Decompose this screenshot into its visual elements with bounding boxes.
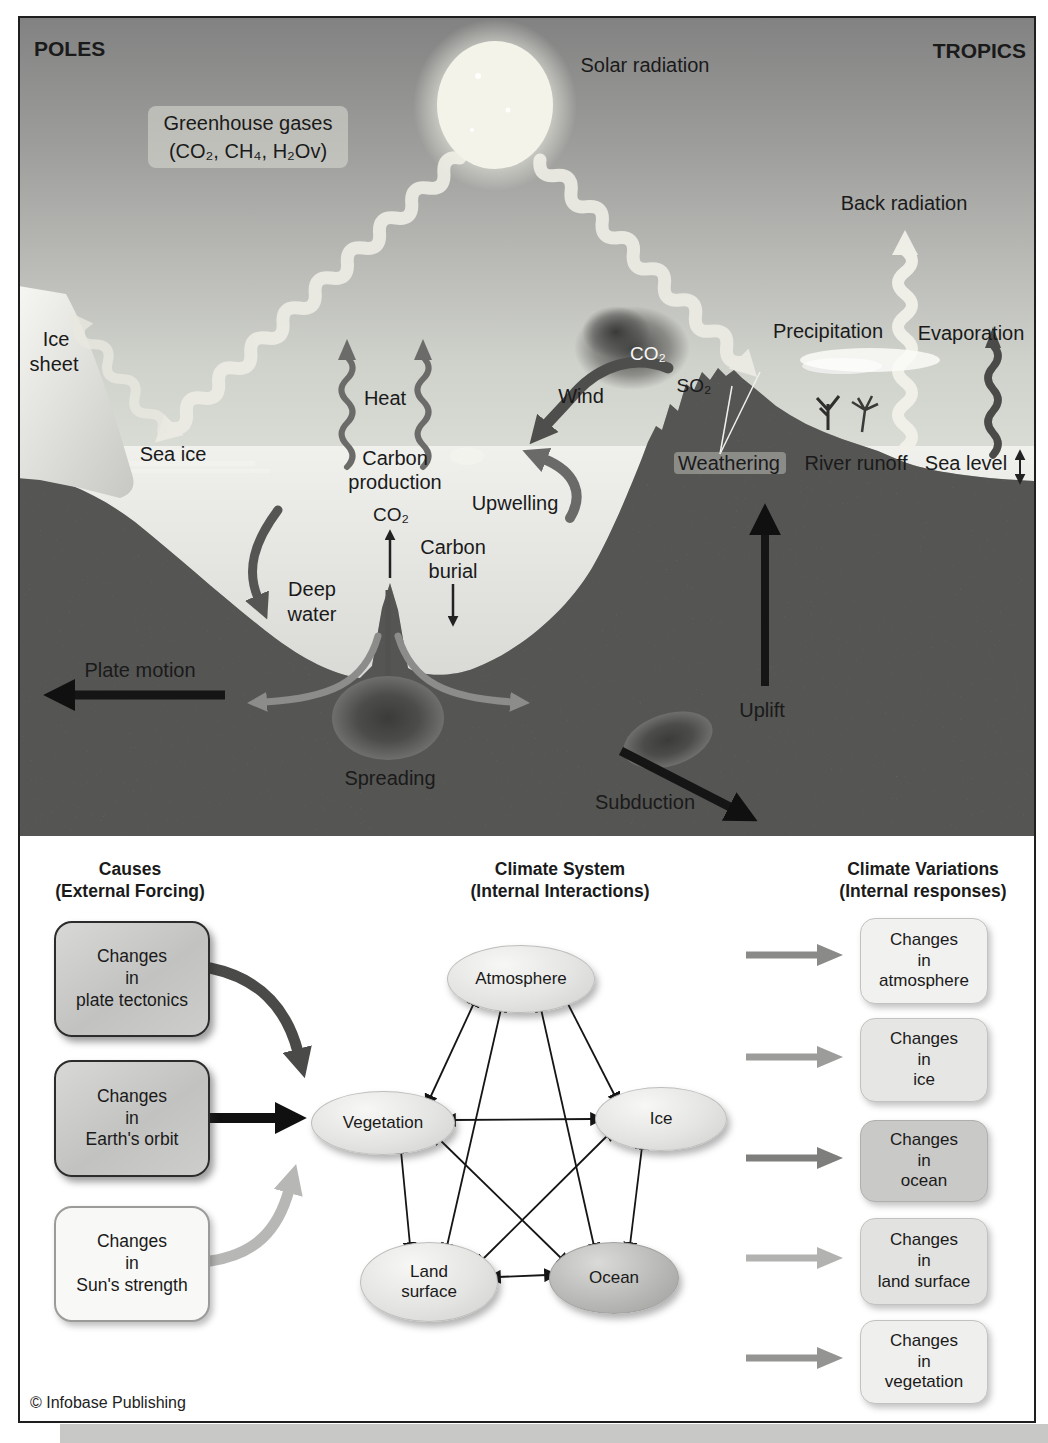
cause-box-line: in <box>56 968 208 990</box>
climate-variations-title: Climate Variations <box>839 858 1006 880</box>
cause-box-plate-tectonics: Changes in plate tectonics <box>54 921 210 1037</box>
node-ice: Ice <box>595 1087 727 1151</box>
uplift-label: Uplift <box>739 699 785 721</box>
response-box-ocean: Changes in ocean <box>860 1120 988 1202</box>
cause-box-line: Changes <box>56 1231 208 1253</box>
plate-tectonics-cause-arrow <box>210 968 298 1052</box>
node-ocean: Ocean <box>549 1242 679 1314</box>
cause-box-line: Sun's strength <box>56 1275 208 1297</box>
greenhouse-formula-label: (CO₂, CH₄, H₂Ov) <box>169 140 327 162</box>
climate-variations-subtitle: (Internal responses) <box>839 880 1006 902</box>
precipitation-label: Precipitation <box>773 320 883 342</box>
climate-system-title: Climate System <box>471 858 650 880</box>
response-box-line: in <box>861 1151 987 1172</box>
edge-atmosphere-vegetation <box>430 1003 474 1098</box>
node-label: Ocean <box>589 1268 639 1288</box>
node-label: Ice <box>650 1109 673 1129</box>
evaporation-label: Evaporation <box>918 322 1025 344</box>
response-arrowhead <box>817 1147 843 1169</box>
edge-atmosphere-ocean <box>541 1009 594 1246</box>
cause-box-line: Changes <box>56 1086 208 1108</box>
page-edge-strip <box>60 1424 1048 1443</box>
response-box-line: Changes <box>861 1130 987 1151</box>
sea-ice-floe <box>115 469 270 473</box>
spreading-label: Spreading <box>344 767 435 789</box>
back-radiation-label: Back radiation <box>841 192 968 214</box>
publisher-credit: © Infobase Publishing <box>30 1394 186 1412</box>
response-box-line: Changes <box>861 1331 987 1352</box>
suns-strength-cause-arrow <box>210 1190 289 1261</box>
climate-system-subtitle: (Internal Interactions) <box>471 880 650 902</box>
co2-ocean-label: CO₂ <box>373 504 409 525</box>
response-box-ice: Changes in ice <box>860 1018 988 1102</box>
sea-ice-label: Sea ice <box>140 443 207 465</box>
sun-icon <box>413 19 577 191</box>
carbon-burial-label: burial <box>429 560 478 582</box>
ice-sheet-label: Ice <box>43 328 70 350</box>
edge-vegetation-ice <box>453 1119 593 1120</box>
tropics-label: TROPICS <box>933 39 1026 62</box>
response-box-vegetation: Changes in vegetation <box>860 1320 988 1404</box>
cause-box-line: in <box>56 1253 208 1275</box>
response-box-line: land surface <box>861 1272 987 1293</box>
subduction-label: Subduction <box>595 791 695 813</box>
response-arrowhead <box>817 1046 843 1068</box>
plate-motion-label: Plate motion <box>84 659 195 681</box>
carbon-production-patch <box>450 447 484 465</box>
node-vegetation: Vegetation <box>311 1091 455 1155</box>
response-arrowhead <box>817 1347 843 1369</box>
cause-box-line: plate tectonics <box>56 990 208 1012</box>
weathering-label: Weathering <box>678 452 780 474</box>
edge-ice-ocean <box>630 1147 642 1245</box>
climate-figure: POLES TROPICS Solar radiation Greenhouse… <box>18 16 1036 1423</box>
ice-sheet-label: sheet <box>30 353 79 375</box>
node-label: surface <box>401 1282 457 1302</box>
node-atmosphere: Atmosphere <box>447 945 595 1013</box>
precipitation-cloud <box>802 358 882 374</box>
response-box-line: in <box>861 1352 987 1373</box>
causes-heading: Causes (External Forcing) <box>55 858 205 903</box>
carbon-production-label: production <box>348 471 441 493</box>
response-box-line: Changes <box>861 1230 987 1251</box>
response-box-line: in <box>861 1251 987 1272</box>
response-box-line: ocean <box>861 1171 987 1192</box>
response-box-atmosphere: Changes in atmosphere <box>860 918 988 1004</box>
wind-label: Wind <box>558 385 604 407</box>
response-box-line: ice <box>861 1070 987 1091</box>
solar-radiation-label: Solar radiation <box>581 54 710 76</box>
node-label: Land <box>410 1262 448 1282</box>
edge-atmosphere-ice <box>567 1002 615 1096</box>
response-box-land-surface: Changes in land surface <box>860 1218 988 1305</box>
response-arrowhead <box>817 1247 843 1269</box>
magma-chamber <box>332 676 444 760</box>
cause-box-earths-orbit: Changes in Earth's orbit <box>54 1060 210 1177</box>
heat-label: Heat <box>364 387 407 409</box>
node-land-surface: Land surface <box>360 1242 498 1322</box>
climate-variations-heading: Climate Variations (Internal responses) <box>839 858 1006 903</box>
carbon-burial-label: Carbon <box>420 536 486 558</box>
response-box-line: atmosphere <box>861 971 987 992</box>
edge-land-ocean <box>498 1275 547 1277</box>
cause-box-line: Earth's orbit <box>56 1129 208 1151</box>
deep-water-label: water <box>287 603 337 625</box>
poles-label: POLES <box>34 37 105 60</box>
so2-label: SO₂ <box>677 375 712 396</box>
response-box-line: in <box>861 1050 987 1071</box>
causes-title: Causes <box>55 858 205 880</box>
cause-box-line: Changes <box>56 946 208 968</box>
river-runoff-label: River runoff <box>804 452 907 474</box>
response-box-line: Changes <box>861 930 987 951</box>
co2-volcano-label: CO₂ <box>630 343 666 364</box>
greenhouse-gases-label: Greenhouse gases <box>163 112 332 134</box>
node-label: Vegetation <box>343 1113 423 1133</box>
response-box-line: vegetation <box>861 1372 987 1393</box>
causes-subtitle: (External Forcing) <box>55 880 205 902</box>
sea-level-label: Sea level <box>925 452 1007 474</box>
carbon-production-label: Carbon <box>362 447 428 469</box>
cause-box-line: in <box>56 1108 208 1130</box>
edge-vegetation-land <box>401 1151 410 1245</box>
response-box-line: in <box>861 951 987 972</box>
node-label: Atmosphere <box>475 969 567 989</box>
response-arrows <box>746 944 843 1369</box>
response-arrowhead <box>817 944 843 966</box>
